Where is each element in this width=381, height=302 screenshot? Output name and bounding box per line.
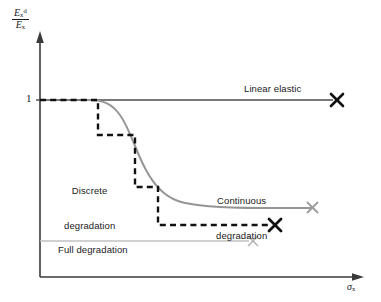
- annotation-continuous-line-1: Continuous: [216, 195, 267, 207]
- annotation-discrete-line-1: Discrete: [64, 185, 115, 197]
- discrete-degradation-x-marker: [269, 219, 281, 231]
- x-axis-arrowhead: [352, 273, 364, 281]
- continuous-degradation-curve: [88, 100, 312, 208]
- annotation-continuous-degradation: Continuous degradation: [216, 172, 267, 264]
- y-axis-arrowhead: [36, 31, 44, 43]
- annotation-discrete-line-2: degradation: [64, 220, 115, 232]
- annotation-continuous-line-2: degradation: [216, 230, 267, 242]
- y-axis-label: Exd Ex: [12, 8, 29, 31]
- annotation-discrete-degradation: Discrete degradation: [64, 162, 115, 254]
- annotation-full-degradation: Full degradation: [58, 244, 128, 256]
- series-continuous-degradation: [88, 100, 318, 213]
- x-axis-label: σx: [347, 281, 355, 292]
- plot-canvas: [0, 0, 381, 302]
- degradation-model-figure: Exd Ex 1 σx Linear elastic Discrete degr…: [0, 0, 381, 302]
- annotation-linear-elastic: Linear elastic: [244, 83, 301, 95]
- y-axis-label-denominator: Ex: [12, 20, 29, 31]
- y-tick-label-1: 1: [26, 93, 32, 105]
